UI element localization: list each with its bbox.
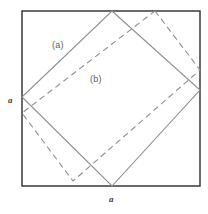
figure-container: (a) (b) a a <box>0 0 208 214</box>
shape-b-label: (b) <box>90 75 102 84</box>
shape-a-label: (a) <box>52 41 64 50</box>
inscribed-square-a <box>22 11 200 186</box>
geometry-diagram <box>0 0 208 214</box>
outer-square <box>22 11 200 186</box>
dimension-label-left: a <box>8 96 13 105</box>
inscribed-square-b <box>22 11 200 181</box>
dimension-label-bottom: a <box>109 195 114 204</box>
